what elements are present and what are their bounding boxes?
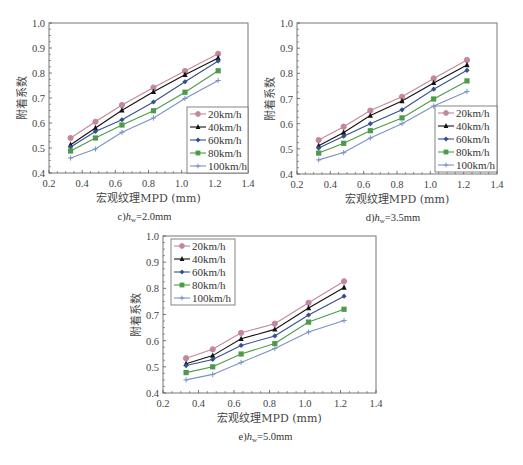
x-axis-title: 宏观纹理MPD (mm) bbox=[345, 192, 449, 206]
series-100km-per-h bbox=[183, 318, 346, 383]
legend-circle-icon bbox=[196, 112, 201, 117]
data-point-plus-icon bbox=[399, 121, 404, 126]
data-point-square-icon bbox=[182, 90, 187, 95]
x-axis-title: 宏观纹理MPD (mm) bbox=[96, 191, 200, 205]
legend-circle-icon bbox=[180, 244, 185, 249]
y-tick-label: 0.6 bbox=[280, 119, 293, 130]
data-point-square-icon bbox=[210, 364, 215, 369]
data-point-diamond-icon bbox=[239, 343, 244, 348]
y-tick-label: 0.7 bbox=[280, 94, 293, 105]
legend-square-icon bbox=[180, 283, 185, 288]
data-point-plus-icon bbox=[239, 360, 244, 365]
data-point-square-icon bbox=[368, 128, 373, 133]
x-tick-label: 0.4 bbox=[76, 178, 90, 189]
data-point-diamond-icon bbox=[272, 333, 277, 338]
x-tick-label: 0.4 bbox=[324, 179, 338, 190]
data-point-circle-icon bbox=[119, 102, 124, 107]
data-point-diamond-icon bbox=[316, 145, 321, 150]
data-point-plus-icon bbox=[183, 377, 188, 382]
chart-d: 0.20.40.60.81.01.21.40.40.50.60.70.80.91… bbox=[263, 18, 504, 225]
data-point-square-icon bbox=[341, 141, 346, 146]
series-80km-per-h bbox=[183, 307, 346, 376]
legend-label: 40km/h bbox=[208, 121, 242, 133]
data-point-circle-icon bbox=[464, 57, 469, 62]
data-point-circle-icon bbox=[93, 119, 98, 124]
data-point-plus-icon bbox=[341, 318, 346, 323]
data-point-diamond-icon bbox=[151, 99, 156, 104]
data-point-circle-icon bbox=[68, 135, 73, 140]
x-axis-title: 宏观纹理MPD (mm) bbox=[217, 411, 321, 425]
y-tick-label: 0.6 bbox=[146, 336, 159, 347]
x-tick-label: 0.6 bbox=[227, 398, 240, 409]
data-point-plus-icon bbox=[151, 115, 156, 120]
data-point-plus-icon bbox=[464, 89, 469, 94]
legend-label: 100km/h bbox=[192, 292, 232, 304]
data-point-square-icon bbox=[239, 351, 244, 356]
subfigure-caption: c)hw=2.0mm bbox=[118, 211, 172, 224]
chart-c: 0.20.40.60.81.01.21.40.40.50.60.70.80.91… bbox=[15, 18, 255, 224]
x-tick-label: 1.4 bbox=[241, 178, 255, 189]
y-tick-label: 0.9 bbox=[146, 257, 159, 268]
legend-label: 40km/h bbox=[192, 253, 226, 265]
data-point-diamond-icon bbox=[464, 68, 469, 73]
y-tick-label: 0.5 bbox=[146, 362, 159, 373]
y-tick-label: 0.8 bbox=[280, 68, 293, 79]
data-point-plus-icon bbox=[341, 150, 346, 155]
y-tick-label: 0.8 bbox=[32, 68, 45, 79]
x-tick-label: 1.2 bbox=[457, 179, 470, 190]
data-point-square-icon bbox=[93, 135, 98, 140]
x-tick-label: 0.2 bbox=[156, 398, 169, 409]
y-tick-label: 0.8 bbox=[146, 283, 159, 294]
data-point-circle-icon bbox=[210, 347, 215, 352]
data-point-diamond-icon bbox=[341, 294, 346, 299]
x-tick-label: 1.0 bbox=[175, 178, 188, 189]
data-point-plus-icon bbox=[306, 329, 311, 334]
y-axis-title: 附着系数 bbox=[263, 77, 277, 121]
x-tick-label: 0.8 bbox=[142, 178, 155, 189]
y-tick-label: 0.9 bbox=[280, 43, 293, 54]
data-point-plus-icon bbox=[368, 135, 373, 140]
x-tick-label: 0.8 bbox=[263, 398, 276, 409]
x-tick-label: 1.0 bbox=[424, 179, 437, 190]
data-point-plus-icon bbox=[182, 96, 187, 101]
y-tick-label: 0.4 bbox=[280, 169, 294, 180]
legend-label: 20km/h bbox=[456, 107, 490, 119]
legend-label: 40km/h bbox=[456, 120, 490, 132]
y-axis-title: 附着系数 bbox=[15, 76, 29, 120]
legend-circle-icon bbox=[444, 111, 449, 116]
y-tick-label: 1.0 bbox=[32, 18, 45, 29]
subfigure-caption: d)hw=3.5mm bbox=[366, 212, 420, 225]
y-tick-label: 0.6 bbox=[32, 118, 45, 129]
data-point-plus-icon bbox=[216, 78, 221, 83]
data-point-square-icon bbox=[151, 108, 156, 113]
data-point-circle-icon bbox=[183, 356, 188, 361]
data-point-triangle-icon bbox=[272, 326, 277, 331]
legend-square-icon bbox=[196, 151, 201, 156]
x-tick-label: 0.6 bbox=[109, 178, 122, 189]
data-point-square-icon bbox=[306, 319, 311, 324]
data-point-circle-icon bbox=[368, 108, 373, 113]
x-tick-label: 1.2 bbox=[208, 178, 221, 189]
legend-label: 20km/h bbox=[208, 108, 242, 120]
legend-label: 100km/h bbox=[456, 159, 496, 171]
legend-label: 60km/h bbox=[208, 134, 242, 146]
data-point-circle-icon bbox=[341, 124, 346, 129]
data-point-square-icon bbox=[119, 122, 124, 127]
legend-label: 80km/h bbox=[192, 279, 226, 291]
data-point-circle-icon bbox=[316, 137, 321, 142]
subfigure-caption: e)hw=5.0mm bbox=[239, 431, 293, 444]
data-point-square-icon bbox=[68, 148, 73, 153]
data-point-circle-icon bbox=[341, 279, 346, 284]
data-point-square-icon bbox=[399, 115, 404, 120]
legend-label: 60km/h bbox=[192, 266, 226, 278]
x-tick-label: 0.6 bbox=[357, 179, 370, 190]
y-tick-label: 1.0 bbox=[146, 231, 159, 242]
x-tick-label: 1.0 bbox=[298, 398, 311, 409]
legend-square-icon bbox=[444, 150, 449, 155]
data-point-plus-icon bbox=[68, 155, 73, 160]
legend-label: 20km/h bbox=[192, 240, 226, 252]
y-tick-label: 0.5 bbox=[32, 143, 45, 154]
data-point-circle-icon bbox=[272, 321, 277, 326]
y-tick-label: 0.4 bbox=[32, 168, 46, 179]
x-tick-label: 1.2 bbox=[334, 398, 347, 409]
